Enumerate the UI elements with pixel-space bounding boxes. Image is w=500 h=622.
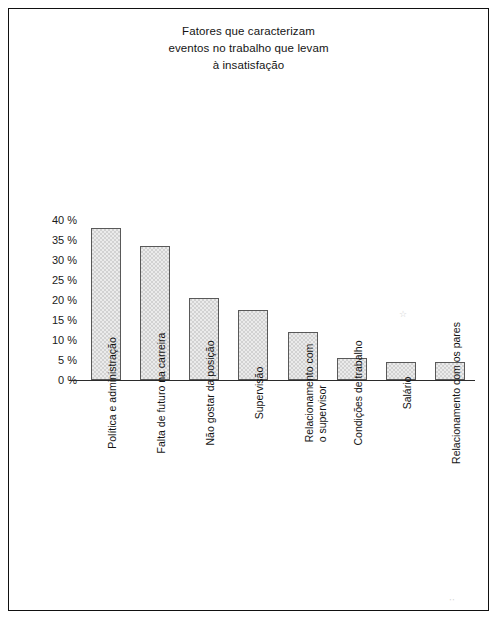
x-axis-category-label: Política e administração <box>91 389 121 579</box>
x-axis-category-label-line: Condições de trabalho <box>352 340 364 445</box>
x-axis-category-label-line: Salário <box>401 377 413 410</box>
scan-artifact-2: ‧‧ <box>449 595 455 605</box>
y-axis-tick-label: 35 % <box>31 235 77 246</box>
x-axis-category-label-text: Política e administração <box>106 337 119 448</box>
x-axis-category-label: Relacionamento com os pares <box>435 389 465 579</box>
x-axis-category-label-text: Relacionamento como supervisor <box>303 344 329 443</box>
x-axis-category-label-line: Falta de futuro na carreira <box>155 333 167 454</box>
x-axis-category-label-text: Condições de trabalho <box>352 340 365 445</box>
x-axis-category-label-text: Salário <box>401 377 414 410</box>
x-axis-category-labels: Política e administraçãoFalta de futuro … <box>81 389 475 589</box>
x-axis-category-label-text: Não gostar da posição <box>204 340 217 445</box>
x-axis-category-label-text: Relacionamento com os pares <box>450 322 463 464</box>
bars-container <box>81 220 475 380</box>
plot-area: 40 %35 %30 %25 %20 %15 %10 %5 %0 % Polít… <box>9 9 488 610</box>
x-axis-category-label: Falta de futuro na carreira <box>140 389 170 579</box>
x-axis-category-label-line: Política e administração <box>106 337 118 448</box>
x-axis-category-label: Condições de trabalho <box>337 389 367 579</box>
x-axis-category-label-text: Falta de futuro na carreira <box>155 333 168 454</box>
y-axis: 40 %35 %30 %25 %20 %15 %10 %5 %0 % <box>31 212 77 388</box>
x-axis-category-label: Salário <box>386 389 416 579</box>
x-axis-category-label-line: Relacionamento com <box>303 344 316 443</box>
y-axis-tick-label: 25 % <box>31 275 77 286</box>
y-axis-tick-label: 40 % <box>31 215 77 226</box>
x-axis-category-label-line: Supervisão <box>253 367 265 420</box>
x-axis-category-label: Relacionamento como supervisor <box>288 389 318 579</box>
x-axis-line <box>69 380 475 381</box>
y-axis-tick-label: 5 % <box>31 355 77 366</box>
x-axis-category-label-line: Relacionamento com os pares <box>450 322 462 464</box>
x-axis-category-label-text: Supervisão <box>253 367 266 420</box>
y-axis-tick-label: 10 % <box>31 335 77 346</box>
figure-frame: Fatores que caracterizam eventos no trab… <box>8 8 489 611</box>
y-axis-tick-label: 15 % <box>31 315 77 326</box>
x-axis-category-label: Supervisão <box>238 389 268 579</box>
x-axis-category-label-line: Não gostar da posição <box>204 340 216 445</box>
x-axis-category-label: Não gostar da posição <box>189 389 219 579</box>
scan-artifact: ☆ <box>399 309 407 319</box>
y-axis-tick-label: 30 % <box>31 255 77 266</box>
y-axis-tick-label: 20 % <box>31 295 77 306</box>
x-axis-category-label-line: o supervisor <box>316 344 329 443</box>
